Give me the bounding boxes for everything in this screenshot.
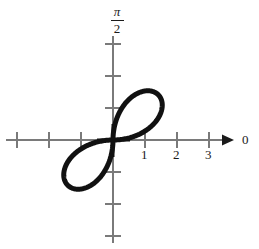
angle-axis-numerator: π <box>104 5 130 19</box>
polar-plot-canvas <box>0 0 259 249</box>
angle-axis-denominator: 2 <box>104 22 130 36</box>
polar-axis-label: 0 <box>242 133 249 146</box>
x-tick-label-3: 3 <box>205 148 212 161</box>
polar-plot-figure: π 2 0 1 2 3 <box>0 0 259 249</box>
angle-axis-label: π 2 <box>104 5 130 35</box>
x-tick-label-1: 1 <box>141 148 148 161</box>
x-tick-label-2: 2 <box>173 148 180 161</box>
horizontal-axis-arrow-icon <box>222 135 234 146</box>
